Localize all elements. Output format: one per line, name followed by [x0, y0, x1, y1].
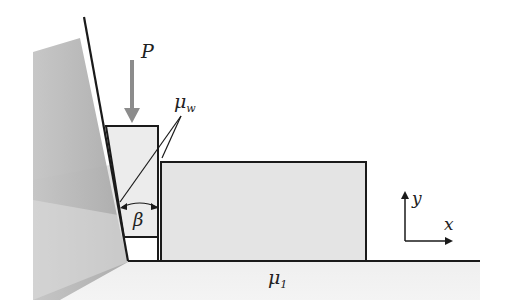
axis-y-label: y [412, 190, 422, 207]
block [161, 162, 366, 261]
force-label: P [141, 42, 154, 61]
floor-friction-subscript: 1 [280, 278, 287, 291]
axis-x-arrow-icon [445, 237, 453, 245]
floor-friction-symbol: μ [268, 266, 280, 288]
mu-w-leader-block [162, 116, 181, 158]
axis-x-label: x [444, 216, 454, 233]
force-arrow-head [124, 108, 140, 123]
wedge-gap [124, 237, 158, 261]
wall-friction-subscript: w [186, 102, 195, 115]
wall-friction-symbol: μ [174, 90, 186, 112]
angle-label: β [133, 211, 143, 229]
diagram-canvas [0, 0, 505, 308]
wall-friction-label: μw [174, 92, 196, 114]
wedge-diagram: P μw β μ1 y x [0, 0, 505, 308]
floor-friction-label: μ1 [268, 268, 287, 290]
axis-y-arrow-icon [401, 191, 409, 199]
